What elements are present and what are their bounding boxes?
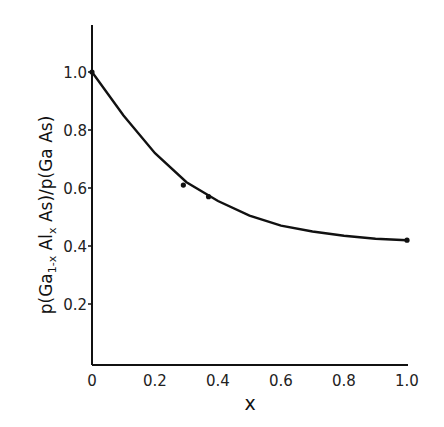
y-axis-label: p(Ga1-x Alx As)/p(Ga As) xyxy=(36,116,59,315)
data-point xyxy=(206,194,211,199)
y-tick-label: 1.0 xyxy=(63,64,87,82)
x-tick-label: 0.4 xyxy=(206,372,230,390)
x-tick-label: 0.6 xyxy=(269,372,293,390)
data-point xyxy=(181,183,186,188)
x-tick-label: 0.2 xyxy=(143,372,167,390)
axes xyxy=(92,25,408,365)
y-tick-label: 0.4 xyxy=(63,238,87,256)
x-tick-label: 0.8 xyxy=(332,372,356,390)
data-point xyxy=(404,238,409,243)
y-tick-label: 0.8 xyxy=(63,122,87,140)
chart: 00.20.40.60.81.0 0.20.40.60.81.0 x p(Ga1… xyxy=(0,0,444,427)
x-axis-label: x xyxy=(244,392,255,414)
x-tick-label: 1.0 xyxy=(395,372,419,390)
data-point xyxy=(89,69,94,74)
x-tick-labels: 00.20.40.60.81.0 xyxy=(87,372,419,390)
y-tick-labels: 0.20.40.60.81.0 xyxy=(63,64,92,314)
data-curve xyxy=(92,72,407,240)
y-tick-label: 0.2 xyxy=(63,296,87,314)
y-tick-label: 0.6 xyxy=(63,180,87,198)
x-tick-label: 0 xyxy=(87,372,97,390)
